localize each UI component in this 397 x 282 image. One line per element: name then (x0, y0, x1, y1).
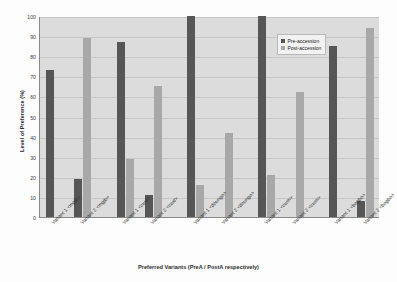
x-axis-title: Preferred Variants (PreA / PostA respect… (0, 264, 397, 270)
y-axis-tick-label: 70 (16, 74, 36, 80)
y-axis-tick-label: 50 (16, 115, 36, 121)
bar-post-accession (296, 92, 304, 217)
bar-pre-accession (329, 46, 337, 217)
y-axis-tick-label: 100 (16, 14, 36, 20)
legend-label-pre-accession: Pre-accession (288, 38, 320, 44)
bar-post-accession (83, 38, 91, 217)
y-axis-tick-label: 30 (16, 155, 36, 161)
y-axis-tick-label: 40 (16, 135, 36, 141)
bar-post-accession (154, 86, 162, 217)
y-axis-tick-label: 20 (16, 175, 36, 181)
y-axis-tick-label: 0 (16, 215, 36, 221)
y-axis-tick-label: 60 (16, 94, 36, 100)
bar-pre-accession (258, 16, 266, 217)
gridline (40, 17, 379, 18)
bar-pre-accession (117, 42, 125, 217)
chart-legend: Pre-accession Post-accession (277, 34, 326, 55)
y-axis-title: Level of Preference (%) (19, 51, 25, 191)
y-axis-tick-label: 10 (16, 195, 36, 201)
bar-post-accession (366, 28, 374, 217)
y-axis-tick-label: 90 (16, 34, 36, 40)
legend-swatch-icon-pre-accession (281, 39, 285, 43)
legend-label-post-accession: Post-accession (288, 45, 322, 51)
legend-item-post-accession: Post-accession (281, 45, 321, 51)
bar-post-accession (225, 133, 233, 217)
legend-item-pre-accession: Pre-accession (281, 38, 321, 44)
y-axis-tick-label: 80 (16, 54, 36, 60)
bar-pre-accession (46, 70, 54, 217)
plot-area (39, 17, 379, 218)
bar-chart: Level of Preference (%) 1009080706050403… (0, 0, 397, 282)
bar-pre-accession (187, 16, 195, 217)
legend-swatch-icon-post-accession (281, 46, 285, 50)
